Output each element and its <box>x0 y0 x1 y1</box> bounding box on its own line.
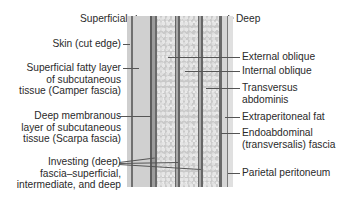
leader-internal-oblique <box>185 71 240 72</box>
leader-scarpa <box>118 116 151 117</box>
superficial-label: Superficial <box>80 13 128 25</box>
abdominal-wall-layers <box>127 16 233 187</box>
leader-camper <box>123 68 139 69</box>
leader-parietal-peritoneum <box>228 173 240 174</box>
leader-external-oblique <box>168 57 240 58</box>
deep-label: Deep <box>236 13 260 25</box>
internal-oblique-layer <box>180 16 198 187</box>
label-investing-fascia: Investing (deep) fascia–superficial, int… <box>17 156 121 191</box>
camper-fascia-layer <box>133 16 150 187</box>
label-camper-fascia: Superficial fatty layer of subcutaneous … <box>19 62 121 97</box>
leader-extraperitoneal-fat <box>225 117 240 118</box>
leader-endoabdominal-fascia <box>221 133 240 134</box>
leader-transversus <box>206 88 240 89</box>
label-internal-oblique: Internal oblique <box>242 65 312 77</box>
label-skin: Skin (cut edge) <box>52 38 121 50</box>
label-external-oblique: External oblique <box>242 51 315 63</box>
label-extraperitoneal-fat: Extraperitoneal fat <box>242 111 325 123</box>
label-scarpa-fascia: Deep membranous layer of subcutaneous ti… <box>21 110 121 145</box>
transversus-abdominis-layer <box>203 16 219 187</box>
label-endoabdominal-fascia: Endoabdominal (transversalis) fascia <box>242 127 335 150</box>
leader-skin <box>123 44 130 45</box>
label-parietal-peritoneum: Parietal peritoneum <box>242 167 330 179</box>
label-transversus-abdominis: Transversus abdominis <box>242 82 298 105</box>
peritoneum-edge <box>228 16 233 187</box>
